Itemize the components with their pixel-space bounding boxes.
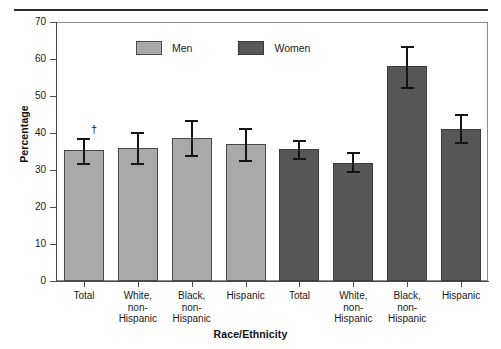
error-cap-men-3-high <box>239 128 252 130</box>
legend-label-women: Women <box>274 42 310 54</box>
y-tick-70 <box>50 22 56 23</box>
error-cap-women-3-high <box>455 114 468 116</box>
legend-label-men: Men <box>172 42 192 54</box>
y-axis-line <box>56 22 57 282</box>
error-bar-women-0 <box>298 140 300 157</box>
category-label-line: non- <box>370 302 444 314</box>
x-tick-0 <box>84 282 85 287</box>
top-divider-rule <box>14 9 488 11</box>
error-cap-men-0-high <box>77 138 90 140</box>
y-tick-label-70: 70 <box>22 17 46 27</box>
legend-item-women: Women <box>238 41 310 55</box>
error-cap-women-2-high <box>401 46 414 48</box>
x-axis-line <box>56 281 489 282</box>
error-cap-men-0-low <box>77 163 90 165</box>
bar-chart-figure: 010203040506070 Percentage Race/Ethnicit… <box>0 0 501 349</box>
y-tick-50 <box>50 96 56 97</box>
error-cap-women-2-low <box>401 87 414 89</box>
error-bar-men-0 <box>83 138 85 163</box>
x-axis-title: Race/Ethnicity <box>0 328 501 340</box>
category-label-line: Hispanic <box>424 290 498 302</box>
bar-women-3 <box>441 129 481 281</box>
y-tick-10 <box>50 244 56 245</box>
x-tick-6 <box>407 282 408 287</box>
bar-men-3 <box>226 144 266 281</box>
error-bar-men-1 <box>137 132 139 164</box>
category-label-line: non- <box>155 302 229 314</box>
y-tick-label-20: 20 <box>22 202 46 212</box>
error-cap-women-0-high <box>293 140 306 142</box>
error-cap-women-1-low <box>347 171 360 173</box>
bar-women-0 <box>279 149 319 281</box>
x-tick-3 <box>246 282 247 287</box>
y-tick-0 <box>50 281 56 282</box>
y-tick-30 <box>50 170 56 171</box>
y-tick-20 <box>50 207 56 208</box>
error-cap-men-1-high <box>131 132 144 134</box>
error-cap-women-1-high <box>347 152 360 154</box>
error-bar-women-3 <box>460 114 462 142</box>
legend: Men Women <box>136 41 310 55</box>
error-cap-women-3-low <box>455 142 468 144</box>
error-bar-women-1 <box>352 152 354 172</box>
error-bar-men-3 <box>245 128 247 161</box>
category-label-line: Hispanic <box>155 313 229 325</box>
error-bar-women-2 <box>406 46 408 87</box>
legend-swatch-men <box>136 41 162 55</box>
y-tick-label-60: 60 <box>22 54 46 64</box>
error-cap-men-2-low <box>185 155 198 157</box>
y-axis-title: Percentage <box>18 89 30 179</box>
y-tick-label-10: 10 <box>22 239 46 249</box>
y-tick-60 <box>50 59 56 60</box>
bar-women-1 <box>333 163 373 281</box>
bar-men-1 <box>118 148 158 281</box>
x-tick-4 <box>299 282 300 287</box>
legend-swatch-women <box>238 41 264 55</box>
x-tick-5 <box>353 282 354 287</box>
legend-item-men: Men <box>136 41 192 55</box>
bar-women-2 <box>387 66 427 281</box>
x-tick-1 <box>138 282 139 287</box>
error-cap-women-0-low <box>293 158 306 160</box>
error-cap-men-3-low <box>239 160 252 162</box>
error-cap-men-2-high <box>185 120 198 122</box>
bar-men-0 <box>64 150 104 281</box>
bar-men-2 <box>172 138 212 281</box>
error-cap-men-1-low <box>131 163 144 165</box>
category-label-line: Hispanic <box>370 313 444 325</box>
error-bar-men-2 <box>191 120 193 155</box>
x-tick-2 <box>192 282 193 287</box>
dagger-annotation: † <box>91 124 97 135</box>
y-tick-label-0: 0 <box>22 276 46 286</box>
x-tick-7 <box>461 282 462 287</box>
category-label-7: Hispanic <box>424 290 498 302</box>
y-tick-40 <box>50 133 56 134</box>
